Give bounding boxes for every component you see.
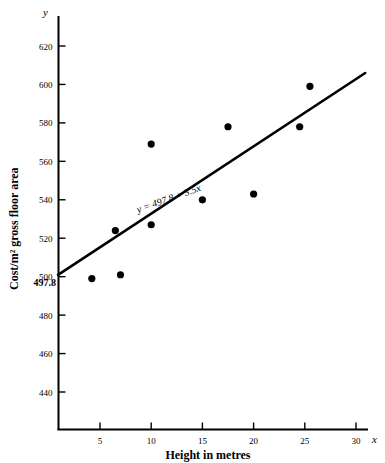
y-tick-label-560: 560 bbox=[39, 157, 53, 167]
x-tick-label-15: 15 bbox=[198, 436, 208, 446]
x-tick-label-30: 30 bbox=[352, 436, 362, 446]
y-tick-label-540: 540 bbox=[39, 195, 53, 205]
data-point bbox=[112, 227, 119, 234]
y-tick-label-497-8: 497.8 bbox=[34, 277, 57, 288]
data-point bbox=[148, 140, 155, 147]
data-point bbox=[199, 196, 206, 203]
x-axis-symbol: x bbox=[371, 433, 377, 445]
y-tick-label-460: 460 bbox=[39, 349, 53, 359]
y-axis-title-text: Cost/m² gross floor area bbox=[7, 167, 21, 290]
x-tick-label-20: 20 bbox=[249, 436, 259, 446]
y-tick-label-520: 520 bbox=[39, 234, 53, 244]
scatter-plot-svg: y x 440460480500520540560580600620 497.8… bbox=[0, 0, 385, 463]
y-tick-group: 440460480500520540560580600620 bbox=[39, 42, 66, 398]
x-axis-title-text: Height in metres bbox=[165, 448, 250, 462]
x-tick-label-10: 10 bbox=[147, 436, 157, 446]
data-point bbox=[88, 275, 95, 282]
equation-annotation: y = 497.8 + 3.5x bbox=[134, 182, 203, 215]
y-axis-title: Cost/m² gross floor area bbox=[7, 167, 21, 290]
data-point bbox=[148, 221, 155, 228]
data-point bbox=[117, 271, 124, 278]
y-tick-label-580: 580 bbox=[39, 118, 53, 128]
y-tick-label-600: 600 bbox=[39, 80, 53, 90]
equation-text: y = 497.8 + 3.5x bbox=[134, 182, 203, 215]
data-point bbox=[224, 123, 231, 130]
x-tick-label-25: 25 bbox=[300, 436, 310, 446]
y-axis-symbol: y bbox=[42, 6, 48, 18]
x-tick-group: 51015202530 bbox=[98, 423, 361, 446]
y-tick-label-440: 440 bbox=[39, 388, 53, 398]
x-tick-label-5: 5 bbox=[98, 436, 103, 446]
regression-line bbox=[58, 73, 365, 275]
regression-line-group bbox=[58, 73, 365, 275]
y-tick-label-620: 620 bbox=[39, 42, 53, 52]
data-point bbox=[306, 83, 313, 90]
axes-group bbox=[58, 16, 369, 430]
data-point bbox=[250, 190, 257, 197]
y-tick-label-480: 480 bbox=[39, 311, 53, 321]
data-point bbox=[296, 123, 303, 130]
chart-figure: y x 440460480500520540560580600620 497.8… bbox=[0, 0, 385, 463]
